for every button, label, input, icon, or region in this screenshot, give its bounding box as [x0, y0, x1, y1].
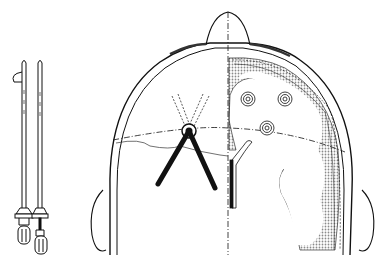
target-marker-2 — [278, 92, 292, 106]
retractor — [230, 141, 252, 208]
catheter-instrument-right — [32, 61, 48, 255]
brain-cortex-cutaway — [229, 58, 340, 250]
medical-illustration — [0, 0, 385, 278]
incision-line — [116, 141, 228, 156]
target-marker-1 — [241, 92, 255, 106]
burr-hole-catheter — [158, 94, 215, 188]
target-marker-3 — [260, 121, 274, 135]
catheter-instrument-left — [13, 61, 33, 245]
